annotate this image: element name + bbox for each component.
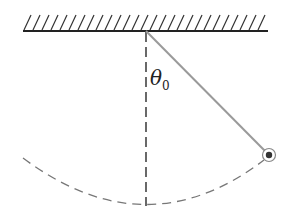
swing-arc — [23, 158, 264, 205]
pendulum-diagram — [0, 0, 297, 216]
theta-symbol: θ — [150, 66, 162, 90]
angle-label: θ0 — [150, 68, 170, 92]
ceiling-hatching — [24, 15, 265, 30]
pendulum-bob — [263, 149, 276, 162]
theta-subscript: 0 — [162, 79, 170, 93]
